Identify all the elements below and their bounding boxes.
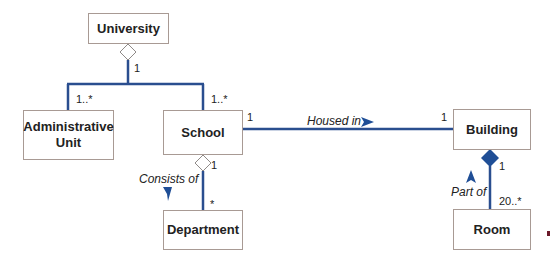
class-name: Building	[466, 122, 518, 138]
arrow-down-icon	[163, 187, 172, 201]
class-name-line2: Unit	[56, 135, 81, 151]
part-of-composition	[466, 149, 499, 209]
multiplicity-building-part-of: 1	[499, 160, 505, 172]
class-administrative-unit[interactable]: Administrative Unit	[23, 110, 114, 160]
filled-diamond-icon	[481, 149, 499, 167]
class-school[interactable]: School	[163, 110, 243, 155]
multiplicity-school-housed-in: 1	[247, 111, 253, 123]
class-room[interactable]: Room	[453, 209, 531, 250]
class-name: Room	[474, 222, 511, 238]
multiplicity-admin-unit: 1..*	[76, 93, 93, 105]
arrow-up-icon	[466, 170, 476, 183]
class-building[interactable]: Building	[453, 109, 531, 150]
hollow-diamond-icon	[120, 44, 136, 60]
class-name: Department	[167, 222, 239, 238]
multiplicity-building-housed-in: 1	[441, 111, 447, 123]
association-housed-in: Housed in	[307, 114, 361, 128]
multiplicity-school-consists-of: 1	[211, 159, 217, 171]
class-name: School	[181, 125, 224, 141]
class-department[interactable]: Department	[163, 210, 243, 250]
arrow-right-icon	[361, 117, 374, 127]
multiplicity-school-university: 1..*	[211, 93, 228, 105]
class-university[interactable]: University	[88, 13, 169, 44]
multiplicity-department: *	[210, 198, 214, 210]
class-name-line1: Administrative	[23, 119, 113, 135]
association-part-of: Part of	[451, 185, 486, 199]
hollow-diamond-icon	[195, 155, 211, 171]
association-consists-of: Consists of	[139, 172, 198, 186]
uml-class-diagram: University Administrative Unit School De…	[0, 0, 550, 265]
multiplicity-room: 20..*	[499, 195, 522, 207]
multiplicity-university: 1	[134, 62, 140, 74]
class-name: University	[97, 21, 160, 37]
